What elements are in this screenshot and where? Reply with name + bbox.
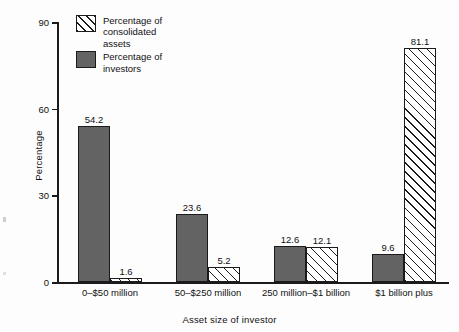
bar-group: 23.65.250–$250 million bbox=[176, 20, 240, 282]
x-axis-line bbox=[57, 282, 449, 284]
bar-value-label: 54.2 bbox=[85, 114, 104, 125]
bar-investors[interactable]: 23.6 bbox=[176, 214, 208, 282]
legend-item-investors: Percentage of investors bbox=[76, 51, 162, 74]
bar-value-label: 1.6 bbox=[119, 266, 132, 277]
bar-value-label: 23.6 bbox=[183, 202, 202, 213]
bar-value-label: 12.1 bbox=[313, 235, 332, 246]
x-category-label: 50–$250 million bbox=[175, 287, 242, 298]
x-axis-title: Asset size of investor bbox=[0, 314, 459, 325]
y-tick-0 bbox=[52, 282, 57, 284]
bar-investors[interactable]: 9.6 bbox=[372, 254, 404, 282]
legend: Percentage of consolidated assets Percen… bbox=[76, 15, 162, 76]
bar-group: 9.681.1$1 billion plus bbox=[372, 20, 436, 282]
bar-investors[interactable]: 12.6 bbox=[274, 246, 306, 282]
x-category-label: 0–$50 million bbox=[82, 287, 138, 298]
bar-value-label: 81.1 bbox=[411, 36, 430, 47]
y-tick-label-60: 60 bbox=[38, 103, 49, 114]
bar-value-label: 12.6 bbox=[281, 234, 300, 245]
scan-artifact bbox=[3, 272, 6, 275]
y-axis-line bbox=[57, 22, 59, 284]
legend-swatch-hatched-icon bbox=[76, 15, 96, 32]
legend-label-investors: Percentage of investors bbox=[103, 51, 162, 74]
bar-assets[interactable]: 12.1 bbox=[306, 247, 338, 282]
bar-value-label: 9.6 bbox=[381, 242, 394, 253]
bar-assets[interactable]: 5.2 bbox=[208, 267, 240, 282]
legend-swatch-solid-icon bbox=[76, 51, 96, 68]
y-tick-label-30: 30 bbox=[38, 190, 49, 201]
y-tick-label-90: 90 bbox=[38, 17, 49, 28]
y-tick-60 bbox=[52, 109, 57, 111]
bar-investors[interactable]: 54.2 bbox=[78, 126, 110, 283]
y-tick-90 bbox=[52, 22, 57, 24]
bar-chart: Percentage Asset size of investor 030609… bbox=[0, 0, 459, 332]
y-tick-30 bbox=[52, 195, 57, 197]
scan-artifact bbox=[3, 217, 6, 222]
legend-label-assets: Percentage of consolidated assets bbox=[103, 15, 162, 49]
bar-group: 12.612.1250 million–$1 billion bbox=[274, 20, 338, 282]
bar-assets[interactable]: 1.6 bbox=[110, 278, 142, 283]
bar-assets[interactable]: 81.1 bbox=[404, 48, 436, 282]
x-category-label: 250 million–$1 billion bbox=[262, 287, 350, 298]
bar-value-label: 5.2 bbox=[217, 255, 230, 266]
legend-item-assets: Percentage of consolidated assets bbox=[76, 15, 162, 49]
x-category-label: $1 billion plus bbox=[375, 287, 433, 298]
y-tick-label-0: 0 bbox=[44, 277, 49, 288]
